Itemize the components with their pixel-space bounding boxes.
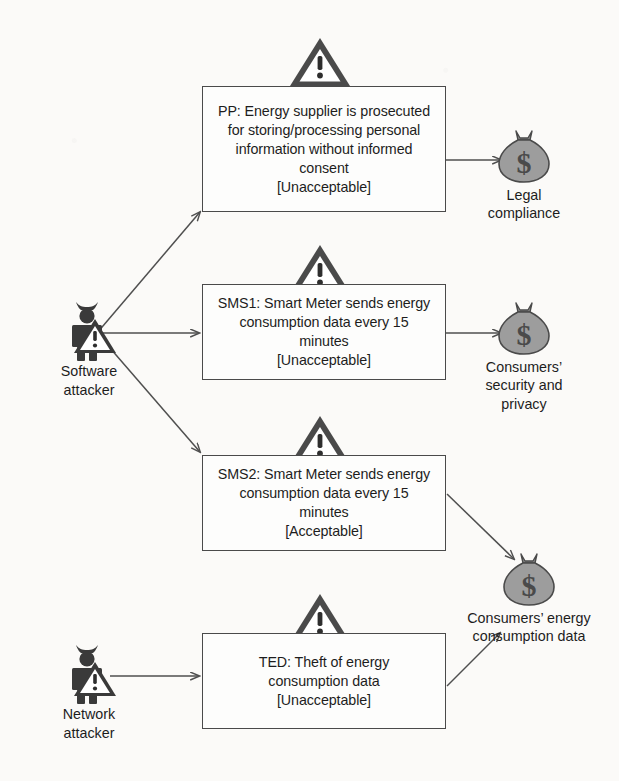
actor-label-line: Network: [63, 706, 115, 722]
actor-network-attacker[interactable]: Network attacker: [46, 638, 132, 742]
money-bag-icon: $: [494, 128, 554, 186]
actor-label: Network attacker: [46, 705, 132, 742]
asset-consumers-security-privacy[interactable]: $ Consumers’ security and privacy: [449, 300, 599, 413]
threat-line: minutes: [299, 503, 348, 522]
threat-verdict: [Unacceptable]: [277, 178, 371, 197]
asset-label-line: Legal: [507, 187, 542, 203]
actor-label: Software attacker: [46, 362, 132, 399]
asset-label: Legal compliance: [449, 186, 599, 223]
threat-box-sms2[interactable]: SMS2: Smart Meter sends energy consumpti…: [202, 455, 446, 551]
threat-line: PP: Energy supplier is prosecuted: [218, 102, 430, 121]
threat-line: consumption data: [268, 672, 379, 691]
threat-line: consent: [299, 159, 348, 178]
edge-sms2-to-consumers-energy-consumption-data: [447, 494, 514, 559]
threat-line: for storing/processing personal: [228, 121, 420, 140]
threat-box-sms1[interactable]: SMS1: Smart Meter sends energy consumpti…: [202, 284, 446, 380]
warning-triangle-icon: [288, 36, 352, 88]
money-bag-symbol: $: [522, 569, 537, 602]
money-bag-icon: $: [499, 551, 559, 609]
threat-line: information without informed: [236, 140, 413, 159]
asset-label-line: Consumers’: [486, 359, 562, 375]
threat-line: TED: Theft of energy: [259, 653, 389, 672]
actor-label-line: attacker: [64, 382, 115, 398]
threat-verdict: [Unacceptable]: [277, 691, 371, 710]
diagram-canvas: PP: Energy supplier is prosecuted for st…: [0, 0, 619, 781]
threat-verdict: [Unacceptable]: [277, 351, 371, 370]
money-bag-symbol: $: [517, 318, 532, 351]
asset-label-line: security and: [485, 377, 562, 393]
asset-label-line: consumption data: [473, 628, 586, 644]
attacker-figure-icon: [59, 638, 119, 704]
attacker-figure-icon: [59, 295, 119, 361]
asset-label-line: compliance: [488, 205, 560, 221]
asset-label-line: privacy: [501, 396, 546, 412]
actor-label-line: attacker: [64, 725, 115, 741]
asset-label: Consumers’ security and privacy: [449, 358, 599, 413]
threat-line: minutes: [299, 332, 348, 351]
threat-box-pp[interactable]: PP: Energy supplier is prosecuted for st…: [202, 86, 446, 212]
asset-legal-compliance[interactable]: $ Legal compliance: [449, 128, 599, 223]
threat-box-ted[interactable]: TED: Theft of energy consumption data [U…: [202, 633, 446, 729]
threat-line: SMS2: Smart Meter sends energy: [218, 465, 430, 484]
threat-verdict: [Acceptable]: [285, 522, 362, 541]
money-bag-icon: $: [494, 300, 554, 358]
money-bag-symbol: $: [517, 146, 532, 179]
asset-label-line: Consumers’ energy: [467, 610, 590, 626]
asset-consumers-energy-consumption-data[interactable]: $ Consumers’ energy consumption data: [445, 551, 613, 646]
actor-software-attacker[interactable]: Software attacker: [46, 295, 132, 399]
threat-line: consumption data every 15: [239, 484, 408, 503]
threat-line: SMS1: Smart Meter sends energy: [218, 294, 430, 313]
asset-label: Consumers’ energy consumption data: [445, 609, 613, 646]
actor-label-line: Software: [61, 363, 117, 379]
threat-line: consumption data every 15: [239, 313, 408, 332]
